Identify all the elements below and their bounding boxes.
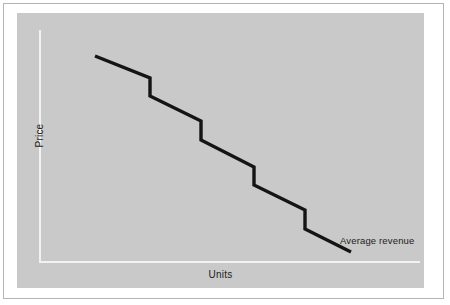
average-revenue-line [95, 56, 351, 252]
series-plot-area [17, 13, 424, 288]
plot-panel: Price Units Average revenue [17, 13, 424, 288]
figure-container: Price Units Average revenue [0, 0, 450, 305]
series-label-average-revenue: Average revenue [340, 235, 414, 246]
